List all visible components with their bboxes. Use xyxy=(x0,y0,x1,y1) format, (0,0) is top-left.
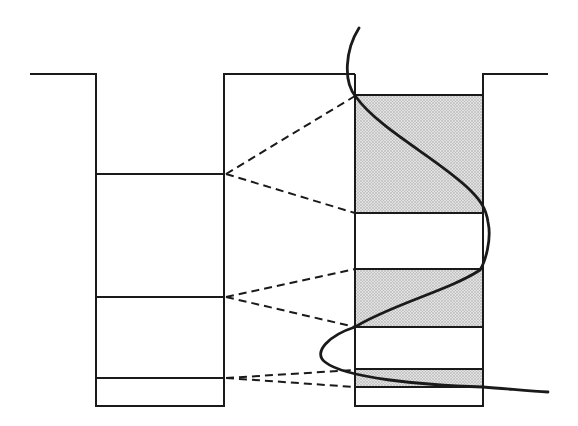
connector-level1-top xyxy=(226,96,355,174)
left-well xyxy=(30,74,355,406)
connector-level3-top xyxy=(226,370,355,378)
connector-level2-bottom xyxy=(226,297,355,327)
right-well-bands xyxy=(355,95,483,387)
connector-level3-bottom xyxy=(226,378,355,387)
dashed-connectors xyxy=(226,96,355,387)
band-1-shaded xyxy=(355,95,483,213)
connector-level1-bottom xyxy=(226,174,355,213)
left-well-outline xyxy=(30,74,355,406)
quantum-well-diagram xyxy=(0,0,578,426)
connector-level2-top xyxy=(226,269,355,297)
